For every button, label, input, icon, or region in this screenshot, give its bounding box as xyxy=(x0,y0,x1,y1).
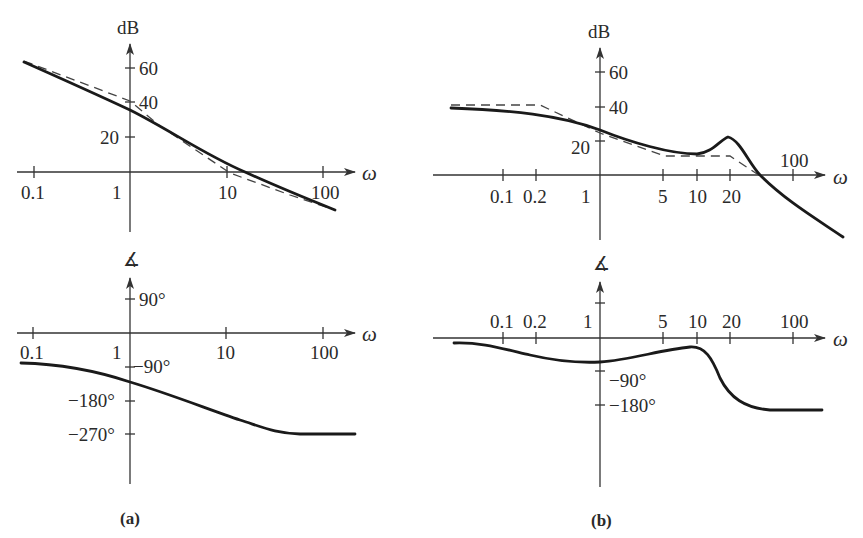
x-tick-label: 10 xyxy=(688,311,707,332)
y-tick-label: 40 xyxy=(609,97,628,118)
x-tick-label: 10 xyxy=(218,182,237,203)
y-tick-label: 20 xyxy=(571,137,590,158)
caption-b: (b) xyxy=(591,511,612,530)
y-tick-label: −180° xyxy=(609,395,656,416)
phase-symbol: ∡ xyxy=(593,253,610,274)
x-tick-label: 100 xyxy=(310,342,339,363)
x-axis-label: ω xyxy=(362,322,377,346)
x-tick-label: 20 xyxy=(722,311,741,332)
panel-a-phase: ∡ ω 90° −90° −180° −270° 0.1 1 10 100 xyxy=(17,249,377,484)
y-tick-label: −90° xyxy=(609,370,646,391)
x-axis-label: ω xyxy=(833,327,848,351)
x-tick-label: 10 xyxy=(216,342,235,363)
y-axis-label: dB xyxy=(117,17,139,38)
x-tick-label: 100 xyxy=(780,150,809,171)
x-tick-label: 0.1 xyxy=(490,311,514,332)
y-tick-label: 40 xyxy=(139,92,158,113)
magnitude-curve xyxy=(451,108,843,237)
panel-b-phase: ∡ ω −90° −180° 0.1 0.2 1 5 10 20 100 xyxy=(433,253,848,487)
x-tick-label: 0.1 xyxy=(20,342,44,363)
x-tick-label: 10 xyxy=(688,186,707,207)
y-tick-label: 20 xyxy=(100,127,119,148)
x-tick-label: 1 xyxy=(581,186,591,207)
y-tick-label: 60 xyxy=(609,62,628,83)
y-tick-label: −180° xyxy=(68,390,115,411)
y-tick-label: −270° xyxy=(68,424,115,445)
panel-a-magnitude: dB ω 60 40 20 0.1 1 10 100 xyxy=(17,17,377,232)
caption-a: (a) xyxy=(120,509,140,528)
bode-figure: dB ω 60 40 20 0.1 1 10 100 ∡ ω 90° −90° … xyxy=(0,0,863,538)
x-axis-label: ω xyxy=(362,161,377,185)
x-tick-label: 0.1 xyxy=(490,186,514,207)
x-tick-label: 0.2 xyxy=(523,186,547,207)
x-tick-label: 100 xyxy=(311,182,340,203)
x-tick-label: 1 xyxy=(583,311,593,332)
y-axis-label: dB xyxy=(588,21,610,42)
y-tick-label: −90° xyxy=(133,356,170,377)
phase-symbol: ∡ xyxy=(123,249,140,270)
x-tick-label: 0.1 xyxy=(21,182,45,203)
asymptote-curve xyxy=(451,105,760,176)
panel-b-magnitude: dB ω 60 40 20 0.1 0.2 1 5 10 20 100 xyxy=(433,21,848,240)
x-tick-label: 5 xyxy=(658,311,668,332)
x-tick-label: 20 xyxy=(722,186,741,207)
x-tick-label: 1 xyxy=(112,182,122,203)
x-tick-label: 5 xyxy=(658,186,668,207)
y-tick-label: 60 xyxy=(139,58,158,79)
x-tick-label: 100 xyxy=(780,311,809,332)
magnitude-curve xyxy=(24,62,335,210)
x-tick-label: 0.2 xyxy=(523,311,547,332)
x-axis-label: ω xyxy=(833,165,848,189)
y-tick-label: 90° xyxy=(139,289,166,310)
x-tick-label: 1 xyxy=(112,342,122,363)
